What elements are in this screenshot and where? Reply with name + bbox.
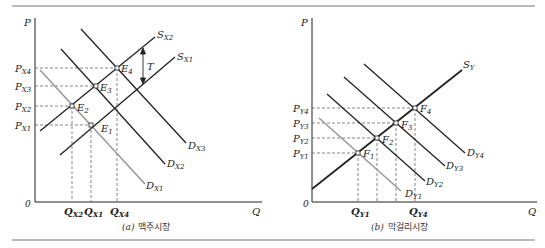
a-label-e2: E2	[76, 102, 89, 115]
a-axis-q-label: Q	[252, 206, 260, 217]
b-caption: (b)막걸리시장	[371, 222, 428, 232]
b-label-sy: SY	[463, 59, 476, 72]
b-curve-sy	[312, 70, 462, 189]
a-label-dx1: DX1	[145, 180, 163, 193]
a-tick-qx4: QX4	[110, 206, 129, 219]
b-point-f2	[375, 136, 379, 140]
b-tick-py1: PY1	[292, 148, 309, 161]
b-label-dy3: DY3	[445, 160, 464, 173]
a-tick-px2: PX2	[14, 101, 32, 114]
a-caption: (a)맥주시장	[122, 222, 170, 232]
b-point-f3	[394, 121, 398, 125]
a-label-e1: E1	[100, 123, 113, 136]
a-tick-qx1: QX1	[84, 206, 103, 219]
b-label-f3: F3	[400, 119, 413, 132]
b-point-f1	[356, 151, 360, 155]
a-point-e3	[94, 84, 98, 88]
a-tax-label: T	[147, 61, 155, 72]
b-label-dy1: DY1	[404, 188, 422, 201]
panel-b-makgeolli-market: P Q 0 F4 F3 F2 F1	[292, 17, 537, 232]
b-label-f2: F2	[381, 134, 394, 147]
b-tick-qy4: QY4	[409, 206, 428, 219]
b-axis-q-label: Q	[528, 206, 536, 217]
panel-a-beer-market: P Q 0 T	[14, 17, 262, 232]
b-tick-qy1: QY1	[351, 206, 370, 219]
a-label-dx3: DX3	[187, 140, 206, 153]
a-label-sx1: SX1	[177, 51, 193, 64]
a-point-e2	[70, 104, 74, 108]
b-label-f1: F1	[362, 148, 374, 161]
a-tick-px4: PX4	[14, 63, 31, 76]
a-point-e4	[115, 66, 119, 70]
a-tick-px3: PX3	[14, 81, 32, 94]
b-tick-py4: PY4	[292, 103, 309, 116]
a-tax-arrow	[141, 48, 146, 84]
b-origin-label: 0	[303, 199, 309, 209]
a-label-sx2: SX2	[157, 29, 174, 42]
a-tick-px1: PX1	[14, 120, 31, 133]
a-axis-p-label: P	[23, 17, 31, 28]
a-tick-qx2: QX2	[64, 206, 83, 219]
figure: P Q 0 T	[0, 0, 545, 248]
a-point-e1	[89, 123, 93, 127]
b-label-dy2: DY2	[425, 176, 444, 189]
b-point-f4	[413, 106, 417, 110]
b-label-dy4: DY4	[466, 147, 484, 160]
a-label-dx2: DX2	[166, 158, 185, 171]
a-origin-label: 0	[25, 199, 31, 209]
b-tick-py3: PY3	[292, 118, 309, 131]
b-axis-p-label: P	[300, 17, 308, 28]
b-tick-py2: PY2	[292, 133, 309, 146]
